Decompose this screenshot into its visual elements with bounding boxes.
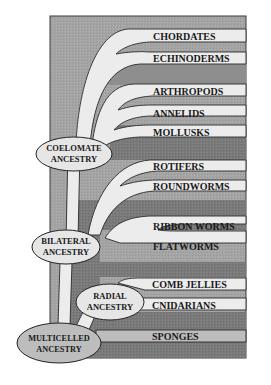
taxon-mollusks: MOLLUSKS xyxy=(153,127,210,138)
phylogeny-diagram: COELOMATE ANCESTRY BILATERAL ANCESTRY RA… xyxy=(0,0,271,385)
bilateral-line1: BILATERAL xyxy=(41,236,91,246)
taxon-cnidarians: CNIDARIANS xyxy=(152,300,216,311)
taxon-annelids: ANNELIDS xyxy=(153,108,205,119)
radial-line2: ANCESTRY xyxy=(87,302,133,312)
taxon-echinoderms: ECHINODERMS xyxy=(153,53,230,64)
bilateral-line2: ANCESTRY xyxy=(43,247,89,257)
multicelled-line1: MULTICELLED xyxy=(28,334,89,343)
taxon-chordates: CHORDATES xyxy=(153,31,216,42)
taxon-ribbon-worms: RIBBON WORMS xyxy=(153,221,235,232)
node-bilateral: BILATERAL ANCESTRY xyxy=(32,230,100,264)
multicelled-line2: ANCESTRY xyxy=(36,345,81,354)
taxon-sponges: SPONGES xyxy=(152,331,199,342)
node-multicelled: MULTICELLED ANCESTRY xyxy=(17,323,101,363)
taxon-rotifers: ROTIFERS xyxy=(153,161,205,172)
node-coelomate: COELOMATE ANCESTRY xyxy=(36,137,112,171)
taxon-flatworms: FLATWORMS xyxy=(153,241,219,252)
node-radial: RADIAL ANCESTRY xyxy=(76,284,144,320)
radial-line1: RADIAL xyxy=(93,291,127,301)
taxon-comb-jellies: COMB JELLIES xyxy=(152,279,227,290)
coelomate-line2: ANCESTRY xyxy=(51,154,97,164)
taxon-arthropods: ARTHROPODS xyxy=(153,86,224,97)
coelomate-line1: COELOMATE xyxy=(46,143,102,153)
taxon-roundworms: ROUNDWORMS xyxy=(153,181,230,192)
